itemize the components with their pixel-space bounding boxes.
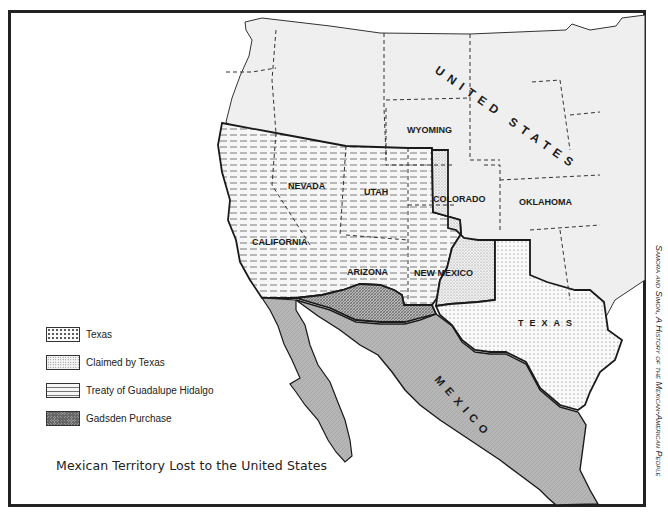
label-arizona: ARIZONA [347, 267, 388, 277]
label-wyoming: WYOMING [407, 125, 452, 135]
label-oklahoma: OKLAHOMA [519, 197, 572, 207]
legend-item-treaty: Treaty of Guadalupe Hidalgo [46, 376, 214, 404]
legend-label: Texas [86, 329, 112, 340]
label-new-mexico: NEW MEXICO [414, 268, 473, 278]
label-nevada: NEVADA [288, 181, 326, 191]
legend-item-claimed-by-texas: Claimed by Texas [46, 348, 214, 376]
source-credit: Samora and Simon, A History of the Mexic… [654, 245, 664, 477]
label-texas: TEXAS [518, 318, 578, 328]
legend-item-gadsden: Gadsden Purchase [46, 404, 214, 432]
label-colorado: COLORADO [433, 194, 486, 204]
label-utah: UTAH [364, 187, 388, 197]
legend-label: Treaty of Guadalupe Hidalgo [86, 385, 214, 396]
map-legend: Texas Claimed by Texas Treaty of Guadalu… [46, 320, 214, 432]
claimed-by-texas-swatch [46, 355, 80, 370]
legend-item-texas: Texas [46, 320, 214, 348]
gadsden-swatch [46, 411, 80, 426]
treaty-swatch [46, 383, 80, 398]
map-title: Mexican Territory Lost to the United Sta… [56, 458, 327, 473]
texas-swatch [46, 327, 80, 342]
source-credit-container: Samora and Simon, A History of the Mexic… [652, 245, 666, 515]
map-canvas: UNITED STATES WYOMING COLORADO OKLAHOMA … [0, 0, 668, 523]
label-california: CALIFORNIA [252, 237, 308, 247]
legend-label: Gadsden Purchase [86, 413, 172, 424]
legend-label: Claimed by Texas [86, 357, 165, 368]
